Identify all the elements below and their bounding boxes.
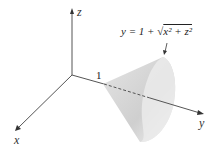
x-axis [18, 75, 72, 128]
z-axis-label: z [77, 6, 82, 18]
equation-lhs: y = 1 + [121, 25, 157, 37]
x-axis-label: x [14, 134, 19, 146]
equation-radicand: x² + z² [163, 25, 192, 37]
y-axis-label: y [199, 117, 204, 129]
tick-label: 1 [96, 70, 102, 81]
diagram-canvas [0, 0, 216, 158]
y-arrow-icon [197, 110, 204, 115]
z-arrow-icon [70, 8, 74, 14]
equation-label: y = 1 + √x² + z² [121, 26, 192, 37]
